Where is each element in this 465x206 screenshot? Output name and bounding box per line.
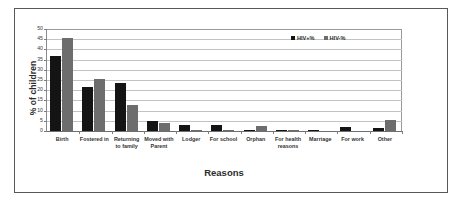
bar-group [176, 29, 208, 131]
x-tick-mark [337, 131, 338, 134]
y-tick-label: 15 [25, 98, 43, 103]
bar-hiv-positive [179, 125, 190, 131]
x-tick-mark [176, 131, 177, 134]
bar-hiv-negative [288, 130, 299, 131]
x-tick-mark [241, 131, 242, 134]
figure-frame: % of children 05101520253035404550 Birth… [14, 8, 448, 193]
bar-group [79, 29, 111, 131]
legend-swatch-icon [324, 36, 328, 40]
y-tick-label: 50 [25, 26, 43, 31]
x-tick-mark [79, 131, 80, 134]
x-tick-mark [402, 131, 403, 134]
legend-entry: HIV+% [291, 35, 315, 41]
x-axis-tick-labels: BirthFostered inReturningto familyMoved … [46, 136, 402, 160]
y-axis-tick-labels: 05101520253035404550 [25, 29, 43, 131]
y-tick-label: 5 [25, 118, 43, 123]
y-tick-label: 30 [25, 67, 43, 72]
x-tick-mark [144, 131, 145, 134]
legend-entry: HIV-% [324, 35, 346, 41]
x-tick-mark [112, 131, 113, 134]
x-axis-title: Reasons [46, 167, 402, 178]
bar-hiv-positive [308, 130, 319, 131]
legend-swatch-icon [291, 36, 295, 40]
y-tick-label: 20 [25, 88, 43, 93]
y-tick-label: 10 [25, 108, 43, 113]
legend: HIV+%HIV-% [291, 35, 345, 41]
x-category-label-line: Parent [137, 143, 181, 150]
bar-hiv-negative [223, 130, 234, 131]
bars-layer [47, 29, 402, 131]
bar-hiv-negative [62, 38, 73, 131]
bar-group [305, 29, 337, 131]
y-tick-label: 45 [25, 37, 43, 42]
x-tick-mark [305, 131, 306, 134]
y-tick-label: 35 [25, 57, 43, 62]
bar-hiv-negative [127, 105, 138, 131]
x-category-label-line: reasons [266, 143, 310, 150]
x-category-label-line: Other [363, 136, 407, 143]
bar-hiv-positive [276, 130, 287, 131]
plot-area [46, 29, 402, 132]
bar-group [112, 29, 144, 131]
y-tick-label: 25 [25, 77, 43, 82]
bar-group [337, 29, 369, 131]
bar-hiv-positive [340, 127, 351, 131]
bar-hiv-positive [373, 128, 384, 131]
bar-hiv-negative [256, 126, 267, 132]
bar-group [241, 29, 273, 131]
bar-hiv-negative [385, 120, 396, 131]
bar-hiv-positive [115, 83, 126, 131]
y-tick-mark [44, 131, 47, 132]
bar-group [144, 29, 176, 131]
bar-hiv-negative [159, 123, 170, 131]
bar-group [370, 29, 402, 131]
bar-hiv-positive [82, 87, 93, 131]
y-tick-label: 40 [25, 47, 43, 52]
legend-label: HIV+% [297, 35, 315, 41]
x-tick-mark [370, 131, 371, 134]
bar-hiv-positive [211, 125, 222, 131]
bar-chart: % of children 05101520253035404550 Birth… [15, 9, 449, 194]
x-category-label: Other [363, 136, 407, 143]
y-tick-label: 0 [25, 128, 43, 133]
bar-hiv-negative [191, 130, 202, 131]
bar-group [208, 29, 240, 131]
bar-group [273, 29, 305, 131]
bar-group [47, 29, 79, 131]
x-tick-mark [208, 131, 209, 134]
bar-hiv-negative [94, 79, 105, 131]
x-tick-mark [273, 131, 274, 134]
bar-hiv-positive [50, 56, 61, 131]
bar-hiv-positive [147, 121, 158, 131]
bar-hiv-positive [244, 130, 255, 131]
legend-label: HIV-% [330, 35, 346, 41]
